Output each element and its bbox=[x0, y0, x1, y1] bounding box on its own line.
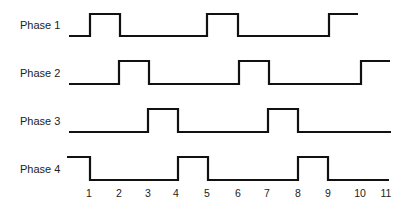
time-tick-4: 4 bbox=[173, 187, 179, 199]
phase-waveforms bbox=[0, 0, 409, 208]
time-tick-2: 2 bbox=[116, 187, 122, 199]
time-tick-6: 6 bbox=[235, 187, 241, 199]
time-tick-7: 7 bbox=[264, 187, 270, 199]
phase-1-label: Phase 1 bbox=[20, 19, 60, 31]
phase-2-label: Phase 2 bbox=[20, 67, 60, 79]
time-tick-11: 11 bbox=[381, 187, 392, 199]
phase-2-waveform bbox=[69, 61, 390, 84]
time-tick-1: 1 bbox=[86, 187, 92, 199]
phase-4-label: Phase 4 bbox=[20, 163, 60, 175]
time-tick-3: 3 bbox=[145, 187, 151, 199]
time-tick-8: 8 bbox=[295, 187, 301, 199]
time-tick-9: 9 bbox=[325, 187, 331, 199]
phase-4-waveform bbox=[67, 157, 389, 180]
time-tick-10: 10 bbox=[354, 187, 366, 199]
time-tick-5: 5 bbox=[204, 187, 210, 199]
phase-3-waveform bbox=[69, 109, 391, 132]
phase-1-waveform bbox=[69, 14, 358, 36]
phase-3-label: Phase 3 bbox=[20, 115, 60, 127]
